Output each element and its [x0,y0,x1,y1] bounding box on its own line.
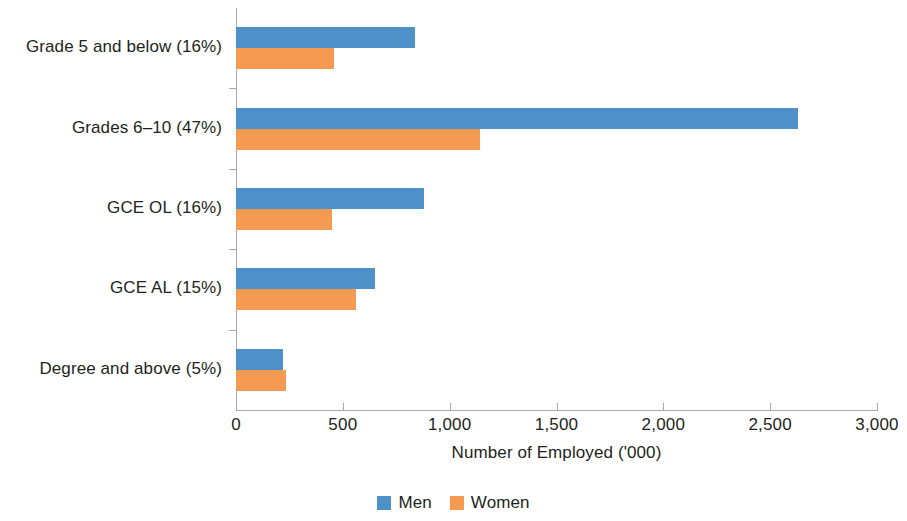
x-axis-tick-label: 0 [231,415,241,435]
legend-item[interactable]: Women [450,493,530,513]
bar-women [236,289,356,310]
y-axis-tick [229,169,236,170]
category-label: GCE AL (15%) [110,278,222,298]
x-axis-tick-label: 2,000 [642,415,686,435]
bar-women [236,48,334,69]
legend-swatch-icon [450,496,464,510]
x-axis-tick-label: 3,000 [855,415,899,435]
bar-men [236,27,415,48]
bar-men [236,108,798,129]
category-label: Grades 6–10 (47%) [72,118,222,138]
bar-chart-figure: 05001,0001,5002,0002,5003,000 Grade 5 an… [0,0,907,521]
bar-women [236,209,332,230]
x-axis-tick-label: 2,500 [748,415,792,435]
bar-men [236,268,375,289]
x-axis-tick [877,403,878,411]
category-label: GCE OL (16%) [107,198,222,218]
category-label: Degree and above (5%) [39,359,222,379]
bar-men [236,188,424,209]
category-label: Grade 5 and below (16%) [26,37,222,57]
chart-legend: MenWomen [0,493,907,513]
legend-swatch-icon [377,496,391,510]
legend-label: Men [398,493,431,513]
y-axis-tick [229,88,236,89]
bar-women [236,129,480,150]
bar-men [236,349,283,370]
x-axis-tick-label: 1,000 [428,415,472,435]
plot-area [236,8,877,410]
y-axis-tick [229,330,236,331]
legend-item[interactable]: Men [377,493,431,513]
x-axis-tick-label: 500 [328,415,357,435]
bar-women [236,370,286,391]
x-axis-tick-label: 1,500 [535,415,579,435]
legend-label: Women [471,493,530,513]
y-axis-tick [229,249,236,250]
x-axis-title: Number of Employed ('000) [236,443,877,463]
